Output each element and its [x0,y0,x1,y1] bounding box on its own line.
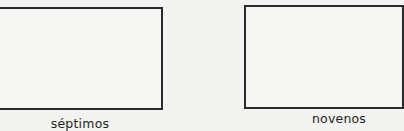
septimos-label: séptimos [30,116,130,131]
novenos-label: novenos [289,111,389,126]
novenos-rectangle [244,5,404,109]
septimos-rectangle [0,7,163,110]
